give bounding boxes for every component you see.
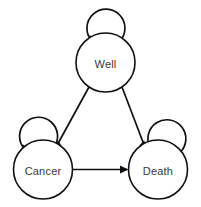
state-transition-diagram: Well Cancer Death bbox=[0, 0, 201, 207]
node-cancer-label: Cancer bbox=[25, 165, 62, 177]
edge-well-to-cancer-line bbox=[58, 87, 89, 144]
edge-well-to-cancer bbox=[54, 87, 89, 150]
edge-cancer-to-death-arrowhead bbox=[120, 165, 129, 173]
node-cancer[interactable]: Cancer bbox=[14, 140, 73, 199]
node-well[interactable]: Well bbox=[76, 33, 135, 92]
diagram-canvas: Well Cancer Death bbox=[0, 0, 201, 207]
edge-cancer-to-death bbox=[73, 165, 129, 173]
node-well-label: Well bbox=[95, 58, 117, 70]
edge-well-to-death-line bbox=[122, 87, 144, 144]
node-death[interactable]: Death bbox=[129, 140, 188, 199]
edge-well-to-death bbox=[122, 87, 147, 150]
node-death-label: Death bbox=[143, 165, 173, 177]
